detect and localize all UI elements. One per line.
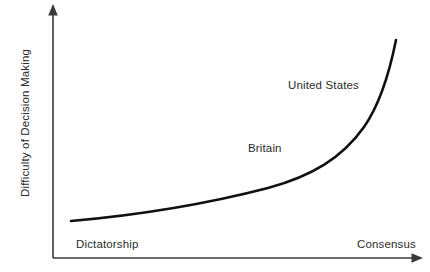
difficulty-curve bbox=[71, 40, 396, 221]
y-axis-arrowhead-icon bbox=[48, 4, 58, 16]
x-axis-arrowhead-icon bbox=[412, 253, 424, 263]
chart-figure: Difficulty of Decision Making Dictatorsh… bbox=[0, 0, 430, 272]
x-axis bbox=[53, 253, 423, 263]
decision-difficulty-chart: Difficulty of Decision Making Dictatorsh… bbox=[0, 0, 430, 272]
y-axis bbox=[48, 4, 58, 258]
y-axis-label: Difficulty of Decision Making bbox=[19, 49, 31, 197]
x-axis-label-right: Consensus bbox=[357, 238, 416, 250]
annotation-britain: Britain bbox=[248, 142, 282, 154]
x-axis-label-left: Dictatorship bbox=[76, 238, 139, 250]
annotation-united-states: United States bbox=[288, 79, 359, 91]
